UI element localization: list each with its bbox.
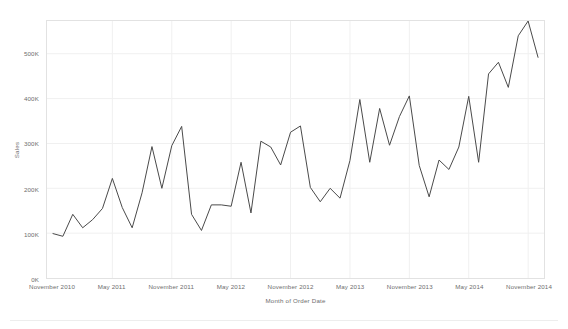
y-tick-label: 300K <box>24 140 39 147</box>
x-tick-label: November 2013 <box>387 283 433 290</box>
x-axis: November 2010May 2011November 2011May 20… <box>46 281 545 297</box>
x-tick-label: November 2011 <box>148 283 194 290</box>
y-axis: Sales 0K100K200K300K400K500K <box>0 20 46 279</box>
x-tick-label: November 2010 <box>29 283 75 290</box>
y-tick-label: 0K <box>31 276 39 283</box>
y-tick-label: 200K <box>24 185 39 192</box>
y-axis-title: Sales <box>13 141 20 157</box>
bottom-divider <box>10 320 558 321</box>
sales-line-chart: Sales 0K100K200K300K400K500K November 20… <box>0 0 568 329</box>
x-tick-label: May 2012 <box>217 283 245 290</box>
x-tick-label: May 2014 <box>455 283 483 290</box>
sales-series-line <box>47 21 544 278</box>
y-tick-label: 400K <box>24 95 39 102</box>
x-tick-label: November 2012 <box>268 283 314 290</box>
plot-area <box>46 20 545 279</box>
y-tick-label: 500K <box>24 49 39 56</box>
x-axis-title: Month of Order Date <box>46 297 545 304</box>
x-tick-label: May 2011 <box>98 283 126 290</box>
x-tick-label: May 2013 <box>336 283 364 290</box>
x-tick-label: November 2014 <box>506 283 552 290</box>
y-tick-label: 100K <box>24 230 39 237</box>
